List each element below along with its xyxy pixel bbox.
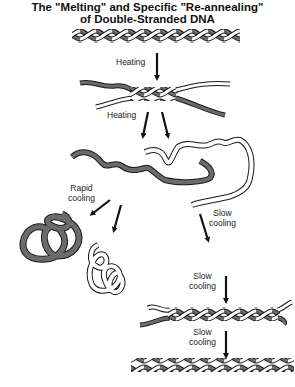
misfolded-tangle-dark bbox=[23, 214, 79, 259]
label-slow-cooling-b: Slow cooling bbox=[189, 272, 216, 291]
label-cooling: cooling bbox=[189, 338, 216, 348]
label-heating-2: Heating bbox=[107, 111, 136, 121]
dna-diagram bbox=[0, 0, 295, 387]
slow-cooling-arrow-a bbox=[200, 214, 208, 240]
label-cooling: cooling bbox=[68, 194, 95, 204]
label-cooling: cooling bbox=[189, 282, 216, 292]
label-slow-cooling-c: Slow cooling bbox=[189, 328, 216, 347]
label-rapid-cooling: Rapid cooling bbox=[68, 184, 95, 203]
label-heating-1: Heating bbox=[116, 58, 145, 68]
partially-reannealed-dna bbox=[140, 302, 292, 325]
reannealed-double-stranded-dna bbox=[131, 358, 294, 372]
rapid-cooling-arrow-b bbox=[114, 205, 121, 230]
partially-melted-dna bbox=[80, 82, 230, 115]
heating-arrow-2a bbox=[143, 112, 148, 136]
heating-arrow-2b bbox=[162, 112, 168, 136]
double-stranded-dna-top bbox=[72, 29, 240, 43]
misfolded-tangle-light bbox=[90, 245, 123, 292]
label-slow-cooling-a: Slow cooling bbox=[209, 209, 236, 228]
separated-single-strands bbox=[72, 140, 252, 205]
label-cooling: cooling bbox=[209, 219, 236, 229]
